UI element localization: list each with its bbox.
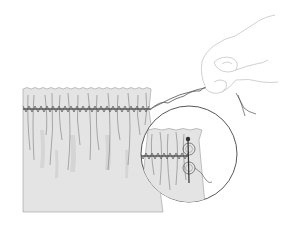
hand-icon xyxy=(201,15,278,93)
thread-end xyxy=(236,93,256,116)
illustration xyxy=(0,0,293,234)
